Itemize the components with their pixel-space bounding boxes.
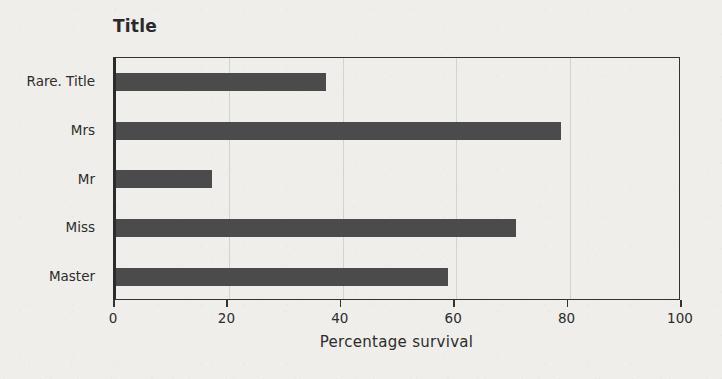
x-tick-label-100: 100	[667, 310, 693, 326]
y-tick-label-mr: Mr	[78, 171, 95, 187]
y-axis-tick-labels: MasterMissMrMrsRare. Title	[0, 57, 103, 300]
x-tick-label-40: 40	[331, 310, 348, 326]
chart-title: Title	[113, 16, 157, 36]
bar-row	[116, 155, 679, 204]
x-tick-label-60: 60	[445, 310, 462, 326]
bar-mr	[116, 170, 212, 188]
x-tick-40	[340, 300, 342, 307]
plot-area	[113, 57, 680, 300]
y-tick-label-master: Master	[49, 268, 95, 284]
bar-row	[116, 58, 679, 107]
x-tick-label-0: 0	[109, 310, 118, 326]
x-tick-0	[113, 300, 115, 307]
bar-row	[116, 204, 679, 253]
bar-mrs	[116, 122, 561, 140]
bar-row	[116, 252, 679, 301]
bar-row	[116, 107, 679, 156]
x-tick-label-20: 20	[218, 310, 235, 326]
y-tick-label-mrs: Mrs	[71, 122, 95, 138]
y-tick-label-miss: Miss	[66, 219, 95, 235]
x-tick-20	[226, 300, 228, 307]
bar-rare-title	[116, 73, 326, 91]
bar-master	[116, 268, 448, 286]
bar-miss	[116, 219, 516, 237]
x-tick-label-80: 80	[558, 310, 575, 326]
x-tick-60	[453, 300, 455, 307]
x-tick-100	[680, 300, 682, 307]
x-axis-title: Percentage survival	[113, 333, 680, 351]
y-tick-label-rare-title: Rare. Title	[27, 73, 95, 89]
x-tick-80	[567, 300, 569, 307]
bar-chart: Title MasterMissMrMrsRare. Title 0204060…	[0, 0, 722, 379]
